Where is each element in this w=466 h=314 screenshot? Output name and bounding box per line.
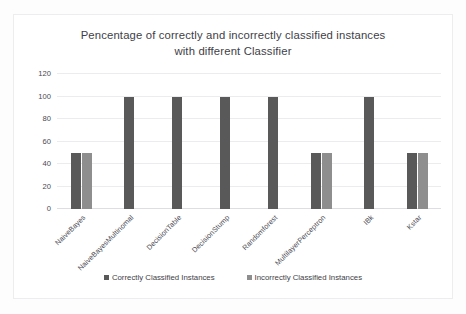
bar-group xyxy=(105,74,153,209)
x-axis-tick-label: Kstar xyxy=(405,213,424,232)
y-axis-tick-label: 0 xyxy=(47,204,51,213)
x-axis-label-slot: IBk xyxy=(345,211,393,273)
chart-frame: Pencentage of correctly and incorrectly … xyxy=(13,14,453,299)
y-axis-tick-label: 120 xyxy=(38,69,51,78)
legend-item[interactable]: Incorrectly Classified Instances xyxy=(247,273,362,282)
legend-swatch-icon xyxy=(104,275,109,280)
bar-group xyxy=(153,74,201,209)
chart-legend: Correctly Classified InstancesIncorrectl… xyxy=(14,273,452,282)
chart-title: Pencentage of correctly and incorrectly … xyxy=(14,27,452,59)
bar[interactable] xyxy=(220,97,230,210)
bar[interactable] xyxy=(322,153,332,209)
plot-area: 020406080100120 xyxy=(57,74,441,209)
bar[interactable] xyxy=(418,153,428,209)
bar-group xyxy=(345,74,393,209)
x-axis-label-slot: Randomforest xyxy=(249,211,297,273)
bar-group xyxy=(297,74,345,209)
y-axis-tick-label: 100 xyxy=(38,91,51,100)
x-axis-labels: NaiveBayesNaiveBayesMultinomalDecisionTa… xyxy=(57,211,441,273)
bar[interactable] xyxy=(82,153,92,209)
bar-series-container xyxy=(57,74,441,209)
bar[interactable] xyxy=(311,153,321,209)
y-axis-tick-label: 40 xyxy=(43,159,51,168)
chart-screenshot: Pencentage of correctly and incorrectly … xyxy=(0,0,466,314)
legend-label: Correctly Classified Instances xyxy=(112,273,215,282)
legend-swatch-icon xyxy=(247,275,252,280)
x-axis-label-slot: DecisionStump xyxy=(201,211,249,273)
bar[interactable] xyxy=(71,153,81,209)
bar-group xyxy=(57,74,105,209)
bar-group xyxy=(393,74,441,209)
x-axis-label-slot: Kstar xyxy=(393,211,441,273)
bar[interactable] xyxy=(364,97,374,210)
legend-item[interactable]: Correctly Classified Instances xyxy=(104,273,215,282)
x-axis-label-slot: NaiveBayesMultinomal xyxy=(105,211,153,273)
bar[interactable] xyxy=(124,97,134,210)
legend-label: Incorrectly Classified Instances xyxy=(255,273,362,282)
bar-group xyxy=(201,74,249,209)
bar[interactable] xyxy=(268,97,278,210)
y-axis-tick-label: 80 xyxy=(43,114,51,123)
bar[interactable] xyxy=(407,153,417,209)
x-axis-label-slot: DecisionTable xyxy=(153,211,201,273)
bar[interactable] xyxy=(172,97,182,210)
bar-group xyxy=(249,74,297,209)
x-axis-label-slot: MultilayerPerceptron xyxy=(297,211,345,273)
y-axis-tick-label: 60 xyxy=(43,136,51,145)
x-axis-tick-label: IBk xyxy=(361,213,375,227)
y-axis-tick-label: 20 xyxy=(43,181,51,190)
x-axis-tick-label: NaiveBayes xyxy=(53,213,87,247)
